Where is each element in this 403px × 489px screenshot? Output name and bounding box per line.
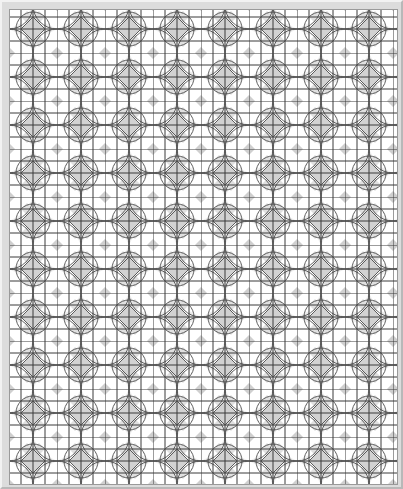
tile-pattern-fill <box>10 10 398 485</box>
tile-pattern-area <box>9 9 398 485</box>
picture-frame: Geometric tile pattern <box>0 0 403 489</box>
tile-pattern <box>10 10 398 485</box>
